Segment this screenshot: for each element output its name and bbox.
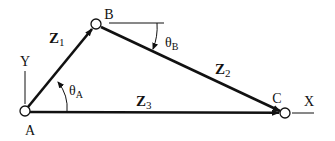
vector-z1-label: Z1 [49, 30, 65, 48]
point-a-label: A [25, 123, 36, 138]
y-axis-label: Y [20, 54, 30, 69]
x-axis-label: X [304, 94, 314, 109]
vector-z3-label: Z3 [136, 93, 152, 111]
joint-a-icon [20, 106, 30, 116]
theta-a-arc [58, 82, 67, 112]
vector-z2-label: Z2 [215, 61, 231, 79]
point-c-label: C [272, 91, 281, 106]
vector-z2-line [101, 27, 280, 111]
diagram-svg: A B C Y X Z1 Z2 Z3 θA θB [0, 0, 335, 141]
vector-loop-diagram: A B C Y X Z1 Z2 Z3 θA θB [0, 0, 335, 141]
theta-a-label: θA [69, 83, 84, 100]
theta-b-label: θB [165, 35, 179, 52]
joint-b-icon [91, 19, 101, 29]
vector-z3-line [30, 112, 279, 113]
joint-c-icon [280, 108, 290, 118]
point-b-label: B [104, 7, 113, 22]
theta-b-arc [153, 23, 157, 49]
